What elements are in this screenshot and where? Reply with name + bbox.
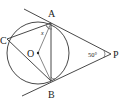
center-dot xyxy=(37,52,39,54)
unknown-label-x: x xyxy=(40,30,44,36)
label-c: C xyxy=(0,35,7,46)
chord-cb xyxy=(7,39,51,81)
tangent-pa xyxy=(24,9,111,54)
angle-arc-p xyxy=(104,51,105,58)
angle-mark-b xyxy=(51,77,55,79)
geometry-diagram: A B C O P 50° x xyxy=(0,0,126,105)
angle-label-p: 50° xyxy=(88,51,98,58)
chord-ca xyxy=(7,23,51,39)
label-b: B xyxy=(48,89,55,100)
tangent-pb xyxy=(22,54,111,96)
radius-ob xyxy=(38,53,51,81)
label-a: A xyxy=(48,8,56,19)
label-o: O xyxy=(27,48,34,59)
label-p: P xyxy=(113,49,119,60)
